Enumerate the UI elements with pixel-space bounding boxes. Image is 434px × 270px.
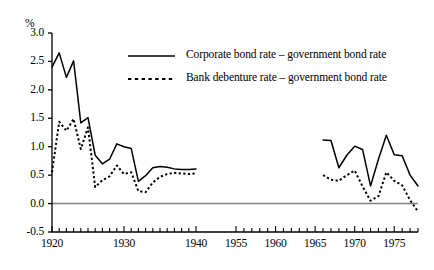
series-line-bank-debenture-spread-segment-1 xyxy=(52,119,196,192)
plot-area xyxy=(0,0,434,270)
series-line-bank-debenture-spread-segment-2 xyxy=(323,171,418,212)
series-line-corporate-bond-spread-segment-2 xyxy=(323,135,418,186)
series-line-corporate-bond-spread-segment-1 xyxy=(52,53,196,182)
chart-figure: % 3.02.52.01.51.00.50.0-0.5 192019301940… xyxy=(0,0,434,270)
